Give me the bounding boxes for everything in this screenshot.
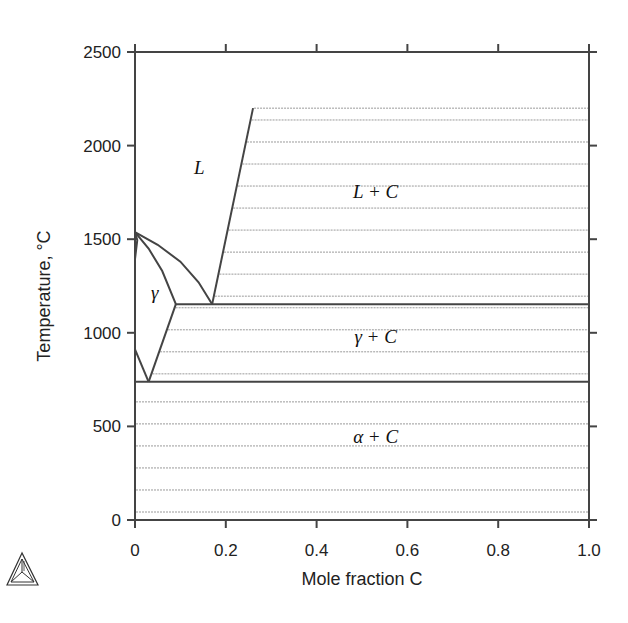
region-label: γ [151, 282, 159, 303]
axis-ticks [127, 44, 597, 528]
boundary-liquidus-right [212, 108, 253, 304]
region-label: L [193, 157, 205, 178]
region-label: L + C [352, 181, 399, 202]
region-label: γ + C [354, 326, 397, 347]
boundary-alpha-gamma-boundary [135, 349, 149, 382]
y-tick-label: 1500 [83, 230, 121, 249]
x-tick-label: 0 [130, 541, 139, 560]
plot-frame [135, 52, 589, 520]
y-tick-label: 500 [93, 417, 121, 436]
y-tick-label: 1000 [83, 324, 121, 343]
y-tick-label: 2000 [83, 137, 121, 156]
boundary-liquidus-left [135, 232, 212, 304]
x-tick-label: 0.6 [396, 541, 420, 560]
region-labels: LL + Cγγ + Cα + C [151, 157, 399, 448]
thermo-calc-triangle-icon [7, 553, 38, 585]
region-label: α + C [353, 426, 398, 447]
y-tick-label: 0 [112, 511, 121, 530]
tick-labels: 00.20.40.60.81.005001000150020002500 [83, 43, 601, 560]
x-tick-label: 1.0 [577, 541, 601, 560]
x-tick-label: 0.8 [486, 541, 510, 560]
y-tick-label: 2500 [83, 43, 121, 62]
y-axis-title: Temperature, °C [34, 230, 54, 361]
x-tick-label: 0.4 [305, 541, 329, 560]
x-tick-label: 0.2 [214, 541, 238, 560]
boundary-gamma-solvus [149, 304, 176, 382]
phase-diagram: 00.20.40.60.81.005001000150020002500 Mol… [0, 0, 628, 623]
x-axis-title: Mole fraction C [301, 569, 422, 589]
